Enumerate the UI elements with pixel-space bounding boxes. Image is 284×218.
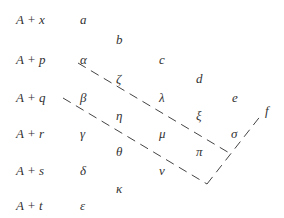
symbol-theta: θ [116,145,122,158]
symbol-e: e [232,91,238,104]
symbol-epsilon: ε [80,199,85,212]
row-label-p: A + p [16,53,45,66]
symbol-d: d [196,72,203,85]
symbol-lambda: λ [159,91,165,104]
row-label-s: A + s [16,164,44,177]
symbol-sigma: σ [231,127,237,140]
dashed-region-outline [0,0,284,218]
upper-dashed-line [78,63,231,154]
symbol-mu: μ [159,127,166,140]
symbol-nu: ν [159,164,165,177]
symbol-a: a [80,13,87,26]
symbol-f: f [265,104,269,117]
symbol-zeta: ζ [116,72,121,85]
row-label-q: A + q [16,91,45,104]
symbol-alpha: α [80,53,87,66]
symbol-b: b [116,33,123,46]
symbol-gamma: γ [80,127,85,140]
symbol-xi: ξ [196,109,202,122]
row-label-r: A + r [16,127,44,140]
symbol-kappa: κ [116,182,122,195]
row-label-t: A + t [16,199,43,212]
closing-dashed-line [207,114,262,184]
row-label-x: A + x [16,13,45,26]
symbol-eta: η [116,109,122,122]
symbol-delta: δ [80,164,86,177]
symbol-beta: β [80,91,86,104]
symbol-c: c [159,53,165,66]
symbol-pi: π [196,145,203,158]
